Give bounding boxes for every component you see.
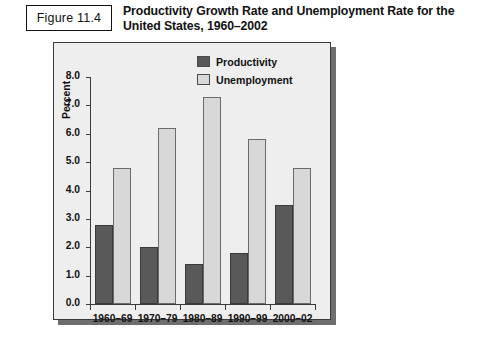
y-axis-tick-label: 2.0 bbox=[66, 240, 80, 251]
y-axis-tick-label: 6.0 bbox=[66, 127, 80, 138]
x-axis-tick bbox=[135, 305, 136, 310]
plot-area: 0.01.02.03.04.05.06.07.08.0 1960–691970–… bbox=[90, 77, 315, 304]
y-axis-tick-label: 0.0 bbox=[66, 297, 80, 308]
bar-unemployment-2000-02 bbox=[293, 168, 311, 304]
bar-unemployment-1990-99 bbox=[248, 139, 266, 304]
y-axis-tick-label: 7.0 bbox=[66, 98, 80, 109]
figure-title: Productivity Growth Rate and Unemploymen… bbox=[123, 4, 468, 33]
x-axis-tick-label: 1990–99 bbox=[228, 313, 268, 324]
y-axis-tick: 2.0 bbox=[86, 247, 91, 248]
y-axis-tick-label: 5.0 bbox=[66, 155, 80, 166]
y-axis-tick-label: 3.0 bbox=[66, 212, 80, 223]
y-axis-tick: 8.0 bbox=[86, 77, 91, 78]
y-axis-tick: 6.0 bbox=[86, 134, 91, 135]
bar-unemployment-1980-89 bbox=[203, 97, 221, 304]
figure-number-box: Figure 11.4 bbox=[26, 5, 112, 31]
y-axis-tick: 3.0 bbox=[86, 219, 91, 220]
x-axis-tick bbox=[180, 305, 181, 310]
x-axis-line bbox=[90, 304, 316, 305]
x-axis-tick-label: 1960–69 bbox=[93, 313, 133, 324]
y-axis-tick: 1.0 bbox=[86, 276, 91, 277]
y-axis-tick-label: 4.0 bbox=[66, 184, 80, 195]
y-axis-tick-label: 8.0 bbox=[66, 70, 80, 81]
chart-panel: Productivity Unemployment Percent 0.01.0… bbox=[53, 42, 331, 320]
y-axis-tick-label: 1.0 bbox=[66, 269, 80, 280]
figure-number-label: Figure 11.4 bbox=[27, 6, 111, 30]
y-axis-tick: 7.0 bbox=[86, 105, 91, 106]
legend-swatch-productivity bbox=[197, 56, 210, 67]
bar-productivity-1960-69 bbox=[95, 225, 113, 304]
x-axis-tick bbox=[270, 305, 271, 310]
legend-label-productivity: Productivity bbox=[216, 56, 277, 68]
y-axis-tick: 4.0 bbox=[86, 191, 91, 192]
legend-item-productivity: Productivity bbox=[197, 54, 293, 69]
x-axis-tick-label: 2000–02 bbox=[273, 313, 313, 324]
x-axis-tick-label: 1980–89 bbox=[183, 313, 223, 324]
bar-productivity-2000-02 bbox=[275, 205, 293, 304]
bar-unemployment-1970-79 bbox=[158, 128, 176, 304]
bar-productivity-1970-79 bbox=[140, 247, 158, 304]
x-axis-tick bbox=[90, 305, 91, 310]
y-axis-tick: 5.0 bbox=[86, 162, 91, 163]
x-axis-tick bbox=[225, 305, 226, 310]
bar-productivity-1980-89 bbox=[185, 264, 203, 304]
x-axis-tick-label: 1970–79 bbox=[138, 313, 178, 324]
x-axis-tick bbox=[315, 305, 316, 310]
figure-header: Figure 11.4 Productivity Growth Rate and… bbox=[26, 4, 466, 38]
bar-productivity-1990-99 bbox=[230, 253, 248, 304]
bar-unemployment-1960-69 bbox=[113, 168, 131, 304]
